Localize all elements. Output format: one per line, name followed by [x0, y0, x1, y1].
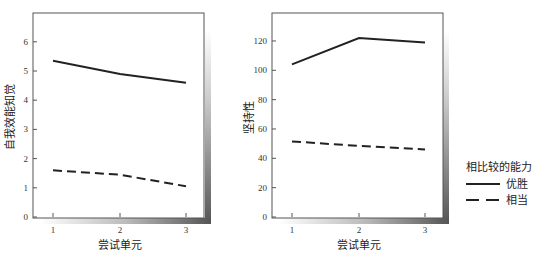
y-axis-title: 自我效能知觉 [3, 84, 17, 150]
x-tick-label: 1 [290, 225, 295, 235]
y-tick-label: 4 [24, 95, 29, 105]
chart-persistence: 020406080100120 123 尝试单元 坚持性 [242, 13, 449, 252]
panel-shadow-right [205, 30, 211, 224]
x-tick-label: 2 [118, 225, 123, 235]
x-tick-label: 3 [184, 225, 189, 235]
y-tick-label: 3 [24, 124, 29, 134]
legend-label-equal: 相当 [506, 193, 528, 207]
y-tick-label: 20 [258, 183, 268, 193]
panel-shadow-bottom [40, 218, 211, 224]
plot-area [33, 13, 204, 218]
y-tick-label: 1 [24, 183, 29, 193]
y-tick-label: 100 [254, 65, 268, 75]
y-tick-label: 2 [24, 154, 29, 164]
plot-area [272, 13, 443, 218]
y-tick-label: 5 [24, 66, 29, 76]
chart-self-efficacy: 0123456 123 尝试单元 自我效能知觉 [3, 13, 211, 252]
x-tick-label: 1 [51, 225, 56, 235]
legend-title: 相比较的能力 [466, 160, 532, 174]
y-tick-label: 0 [24, 212, 29, 222]
y-tick-label: 60 [258, 124, 268, 134]
y-tick-label: 120 [254, 36, 268, 46]
y-tick-label: 40 [258, 153, 268, 163]
panel-shadow-right [443, 30, 449, 224]
x-axis-title: 尝试单元 [98, 239, 142, 252]
y-tick-label: 6 [24, 37, 29, 47]
x-tick-label: 2 [357, 225, 362, 235]
figure: 0123456 123 尝试单元 自我效能知觉 020406080100120 … [0, 0, 536, 257]
x-axis-title: 尝试单元 [337, 239, 381, 252]
legend: 相比较的能力 优胜 相当 [466, 160, 532, 207]
y-tick-label: 80 [258, 95, 268, 105]
y-axis-title: 坚持性 [242, 101, 256, 134]
x-tick-label: 3 [423, 225, 428, 235]
legend-label-superior: 优胜 [506, 177, 528, 191]
y-tick-label: 0 [263, 212, 268, 222]
panel-shadow-bottom [279, 218, 449, 224]
